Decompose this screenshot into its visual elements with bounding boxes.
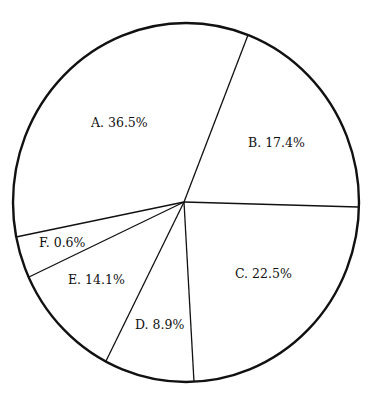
slice-label-c: C. 22.5%	[235, 266, 292, 281]
slice-label-e: E. 14.1%	[68, 272, 125, 287]
slice-label-a: A. 36.5%	[90, 115, 148, 130]
pie-chart: A. 36.5% B. 17.4% C. 22.5% D. 8.9% E. 14…	[0, 0, 371, 401]
slice-label-d: D. 8.9%	[135, 317, 184, 332]
slice-label-b: B. 17.4%	[248, 135, 305, 150]
slice-label-f: F. 0.6%	[39, 235, 86, 250]
